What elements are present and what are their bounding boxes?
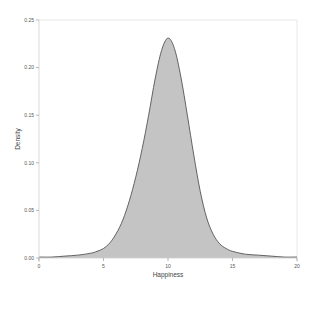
x-axis: 05101520	[38, 258, 300, 269]
y-axis: 0.000.050.100.150.200.25	[24, 17, 39, 262]
density-chart: 0.000.050.100.150.200.25 05101520 Happin…	[0, 0, 319, 325]
density-area	[39, 38, 297, 258]
y-tick-label: 0.00	[24, 255, 34, 261]
y-tick-label: 0.05	[24, 207, 34, 213]
x-tick-label: 15	[230, 263, 236, 269]
x-tick-label: 20	[294, 263, 300, 269]
x-tick-label: 5	[102, 263, 105, 269]
y-tick-label: 0.25	[24, 17, 34, 23]
y-axis-title: Density	[14, 127, 22, 149]
x-axis-title: Happiness	[153, 271, 184, 279]
y-tick-label: 0.20	[24, 64, 34, 70]
y-tick-label: 0.15	[24, 112, 34, 118]
x-tick-label: 10	[165, 263, 171, 269]
y-tick-label: 0.10	[24, 160, 34, 166]
x-tick-label: 0	[38, 263, 41, 269]
